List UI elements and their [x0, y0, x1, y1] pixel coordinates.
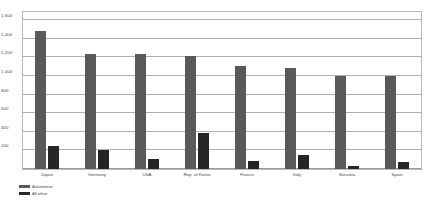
bar-group — [222, 12, 272, 169]
bar-automotive[interactable] — [35, 31, 46, 169]
x-tick-label: Rep. of Korea — [172, 172, 222, 178]
y-tick-label: 200 — [1, 143, 23, 148]
y-tick-label: 600 — [1, 106, 23, 111]
bars-layer — [22, 11, 422, 170]
x-tick-label: Italy — [272, 172, 322, 178]
bar-all-other[interactable] — [248, 161, 259, 169]
bar-group — [122, 12, 172, 169]
bar-group — [322, 12, 372, 169]
bar-group — [372, 12, 422, 169]
bar-all-other[interactable] — [348, 166, 359, 169]
bar-automotive[interactable] — [85, 54, 96, 169]
bar-all-other[interactable] — [298, 155, 309, 169]
legend-swatch-icon — [19, 185, 30, 188]
bar-group — [22, 12, 72, 169]
legend-item[interactable]: Automotive — [19, 183, 53, 190]
bar-automotive[interactable] — [335, 76, 346, 169]
bar-chart: 1,6001,4001,2001,000800600400200 JapanGe… — [0, 0, 428, 206]
y-tick-label: 1,200 — [1, 50, 23, 55]
legend-label: Automotive — [32, 184, 53, 189]
x-tick-label: France — [222, 172, 272, 178]
bar-all-other[interactable] — [198, 133, 209, 169]
y-tick-label: 1,600 — [1, 13, 23, 18]
x-tick-label: USA — [122, 172, 172, 178]
bar-automotive[interactable] — [235, 66, 246, 169]
x-tick-label: Spain — [372, 172, 422, 178]
bar-group — [72, 12, 122, 169]
bar-all-other[interactable] — [98, 150, 109, 169]
x-tick-label: Japan — [22, 172, 72, 178]
legend: AutomotiveAll other — [19, 183, 53, 197]
x-tick-label: Slovakia — [322, 172, 372, 178]
bar-automotive[interactable] — [385, 76, 396, 169]
legend-swatch-icon — [19, 192, 30, 195]
bar-all-other[interactable] — [148, 159, 159, 169]
bar-all-other[interactable] — [398, 162, 409, 169]
y-tick-label: 1,000 — [1, 69, 23, 74]
legend-label: All other — [32, 191, 47, 196]
bar-automotive[interactable] — [185, 56, 196, 169]
y-tick-label: 800 — [1, 88, 23, 93]
bar-all-other[interactable] — [48, 146, 59, 169]
y-tick-label: 1,400 — [1, 32, 23, 37]
legend-item[interactable]: All other — [19, 190, 53, 197]
bar-group — [172, 12, 222, 169]
y-tick-label: 400 — [1, 125, 23, 130]
bar-automotive[interactable] — [135, 54, 146, 169]
x-tick-label: Germany — [72, 172, 122, 178]
bar-group — [272, 12, 322, 169]
bar-automotive[interactable] — [285, 68, 296, 169]
x-axis: JapanGermanyUSARep. of KoreaFranceItalyS… — [22, 172, 422, 182]
